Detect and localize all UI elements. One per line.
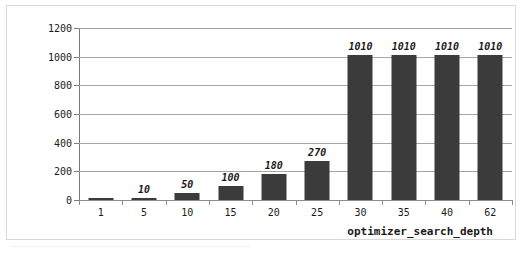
bar-slot[interactable]: 1010	[469, 28, 512, 200]
x-tick-mark	[122, 200, 123, 205]
bar-value-label: 1010	[478, 41, 502, 52]
bar-slot[interactable]	[79, 28, 122, 200]
x-tick-label: 15	[225, 207, 237, 218]
x-tick-label: 40	[441, 207, 453, 218]
x-tick-mark	[512, 200, 513, 205]
bar-value-label: 1010	[392, 41, 416, 52]
bar-value-label: 10	[138, 184, 150, 195]
x-tick-label: 30	[354, 207, 366, 218]
y-tick-label: 800	[54, 80, 72, 91]
x-tick-mark	[339, 200, 340, 205]
bar[interactable]	[391, 55, 416, 200]
x-axis-title: optimizer_search_depth	[347, 225, 493, 238]
bar-value-label: 270	[308, 147, 326, 158]
bar[interactable]	[218, 186, 243, 200]
bar[interactable]	[478, 55, 503, 200]
x-tick-mark	[425, 200, 426, 205]
y-tick-label: 200	[54, 166, 72, 177]
x-tick-label: 1	[98, 207, 104, 218]
x-tick-label: 62	[484, 207, 496, 218]
x-tick-label: 20	[268, 207, 280, 218]
plot-area: 020040060080010001200 105010018027010101…	[79, 28, 512, 200]
bar-slot[interactable]: 180	[252, 28, 295, 200]
x-tick-mark	[166, 200, 167, 205]
x-tick-mark	[252, 200, 253, 205]
bar-slot[interactable]: 1010	[382, 28, 425, 200]
bar-value-label: 180	[265, 160, 283, 171]
bar-slot[interactable]: 1010	[425, 28, 468, 200]
bar-slot[interactable]: 1010	[339, 28, 382, 200]
bar-value-label: 1010	[435, 41, 459, 52]
x-tick-mark	[296, 200, 297, 205]
y-tick-label: 1200	[48, 23, 72, 34]
y-tick-label: 0	[66, 195, 72, 206]
x-tick-mark	[209, 200, 210, 205]
x-tick-label: 5	[141, 207, 147, 218]
y-tick-label: 1000	[48, 51, 72, 62]
bar-slot[interactable]: 270	[296, 28, 339, 200]
bar-value-label: 50	[181, 179, 193, 190]
bar-slot[interactable]: 50	[166, 28, 209, 200]
bar[interactable]	[435, 55, 460, 200]
bar[interactable]	[348, 55, 373, 200]
bar[interactable]	[305, 161, 330, 200]
x-tick-mark	[469, 200, 470, 205]
bar[interactable]	[175, 193, 200, 200]
bar[interactable]	[261, 174, 286, 200]
bar-slot[interactable]: 100	[209, 28, 252, 200]
x-tick-label: 10	[181, 207, 193, 218]
y-tick-label: 400	[54, 137, 72, 148]
x-tick-mark	[79, 200, 80, 205]
y-tick-label: 600	[54, 109, 72, 120]
x-tick-label: 25	[311, 207, 323, 218]
x-tick-mark	[382, 200, 383, 205]
bar-value-label: 1010	[348, 41, 372, 52]
chart-frame: Elapsed MilliSeconds 0200400600800100012…	[6, 5, 516, 240]
x-tick-label: 35	[398, 207, 410, 218]
bar-value-label: 100	[222, 172, 240, 183]
bar-slot[interactable]: 10	[122, 28, 165, 200]
scan-artifact	[10, 246, 250, 247]
